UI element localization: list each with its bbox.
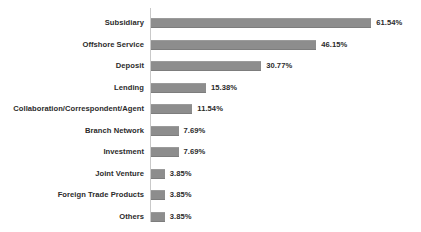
bar	[151, 169, 165, 179]
plot-area: Subsidiary61.54%Offshore Service46.15%De…	[0, 8, 421, 230]
bar	[151, 212, 165, 222]
value-label: 3.85%	[170, 206, 192, 228]
category-label: Investment	[0, 141, 144, 163]
category-label: Joint Venture	[0, 163, 144, 185]
category-label: Others	[0, 206, 144, 228]
category-label: Offshore Service	[0, 34, 144, 56]
category-label: Branch Network	[0, 120, 144, 142]
bar-row: Lending15.38%	[0, 77, 421, 99]
bar-row: Subsidiary61.54%	[0, 12, 421, 34]
bar-track: 15.38%	[151, 77, 421, 99]
bar	[151, 147, 179, 157]
category-label: Foreign Trade Products	[0, 184, 144, 206]
bar-row: Joint Venture3.85%	[0, 163, 421, 185]
chart-title-clipped	[0, 0, 421, 3]
value-label: 7.69%	[184, 141, 206, 163]
value-label: 3.85%	[170, 184, 192, 206]
bar	[151, 61, 261, 71]
horizontal-bar-chart: Subsidiary61.54%Offshore Service46.15%De…	[0, 0, 421, 232]
bar-track: 3.85%	[151, 163, 421, 185]
value-label: 15.38%	[211, 77, 237, 99]
category-label: Subsidiary	[0, 12, 144, 34]
bar	[151, 126, 179, 136]
value-label: 11.54%	[197, 98, 223, 120]
bar-track: 46.15%	[151, 34, 421, 56]
bar	[151, 190, 165, 200]
bar	[151, 40, 316, 50]
bar-track: 11.54%	[151, 98, 421, 120]
bar-row: Branch Network7.69%	[0, 120, 421, 142]
category-label: Lending	[0, 77, 144, 99]
value-label: 46.15%	[321, 34, 347, 56]
bar	[151, 83, 206, 93]
bar-row: Collaboration/Correspondent/Agent11.54%	[0, 98, 421, 120]
bar-row: Offshore Service46.15%	[0, 34, 421, 56]
bar	[151, 18, 371, 28]
bar-row: Deposit30.77%	[0, 55, 421, 77]
bar-row: Others3.85%	[0, 206, 421, 228]
bar-track: 30.77%	[151, 55, 421, 77]
bar-track: 3.85%	[151, 184, 421, 206]
bar-row: Foreign Trade Products3.85%	[0, 184, 421, 206]
value-label: 30.77%	[266, 55, 292, 77]
value-label: 3.85%	[170, 163, 192, 185]
category-label: Collaboration/Correspondent/Agent	[0, 98, 144, 120]
bar-track: 61.54%	[151, 12, 421, 34]
bar-track: 7.69%	[151, 141, 421, 163]
bar-row: Investment7.69%	[0, 141, 421, 163]
bar	[151, 104, 192, 114]
value-label: 61.54%	[376, 12, 402, 34]
bar-track: 3.85%	[151, 206, 421, 228]
category-label: Deposit	[0, 55, 144, 77]
bar-track: 7.69%	[151, 120, 421, 142]
value-label: 7.69%	[184, 120, 206, 142]
